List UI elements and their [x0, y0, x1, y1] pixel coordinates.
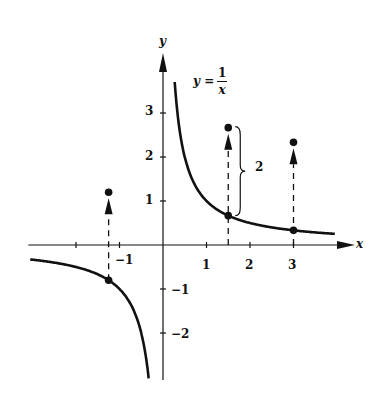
shift-arrow-icon — [105, 198, 113, 214]
curve-point — [224, 212, 232, 220]
y-axis-label: y — [159, 35, 166, 47]
x-axis-arrow-icon — [337, 241, 355, 249]
x-axis-label: x — [356, 238, 363, 250]
brace — [235, 127, 245, 216]
x-tick-label-2: 2 — [245, 259, 253, 271]
equation-lhs: y = — [193, 75, 214, 87]
equation-fraction: 1 x — [217, 66, 227, 97]
curve-point — [290, 227, 298, 235]
x-tick-label-1: 1 — [202, 259, 210, 271]
x-tick-label-3: 3 — [288, 259, 296, 271]
y-tick-label-1: 1 — [145, 194, 153, 206]
curve-point — [105, 276, 113, 284]
shift-arrow-icon — [224, 134, 232, 150]
x-tick-label-neg1: −1 — [115, 254, 133, 266]
shifted-point — [224, 124, 232, 132]
plot-area — [0, 0, 383, 408]
shifted-point — [290, 139, 298, 147]
y-tick-label-neg2: −2 — [171, 328, 189, 340]
y-axis-arrow-icon — [159, 53, 167, 72]
y-tick-label-3: 3 — [145, 105, 153, 117]
brace-label: 2 — [255, 161, 263, 173]
curve-positive-branch — [175, 82, 335, 234]
equation-numerator: 1 — [217, 66, 227, 82]
y-tick-label-2: 2 — [145, 150, 153, 162]
shift-arrow-icon — [290, 148, 298, 164]
curve-negative-branch — [30, 259, 148, 378]
equation-denominator: x — [217, 82, 227, 97]
shifted-point — [105, 188, 113, 196]
y-tick-label-neg1: −1 — [171, 284, 189, 296]
